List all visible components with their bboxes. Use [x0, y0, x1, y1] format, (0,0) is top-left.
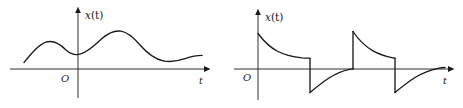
- left-plot-y-axis-label: x(t): [85, 9, 103, 21]
- right-plot: x(t) O t: [234, 9, 455, 100]
- left-plot-origin-label: O: [61, 73, 69, 84]
- right-plot-decay-segment-1: [258, 34, 310, 59]
- right-plot-origin-label: O: [243, 72, 251, 83]
- right-plot-x-axis-label: t: [443, 75, 447, 86]
- right-plot-y-axis-label: x(t): [265, 11, 283, 23]
- left-plot-x-axis-label: t: [199, 75, 203, 86]
- right-plot-decay-segment-2: [353, 32, 395, 59]
- right-plot-y-axis-label-arg: (t): [271, 11, 283, 23]
- figure-svg: x(t) O t: [0, 0, 463, 108]
- figure-canvas: x(t) O t: [0, 0, 463, 108]
- right-plot-y-axis-arrow-icon: [255, 9, 261, 15]
- left-plot-y-axis-arrow-icon: [75, 7, 81, 13]
- left-plot-signal-curve: [24, 31, 202, 63]
- right-plot-rise-segment-1: [310, 69, 353, 93]
- left-plot-y-axis-label-arg: (t): [91, 9, 103, 21]
- right-plot-rise-segment-2: [395, 68, 445, 93]
- left-plot: x(t) O t: [10, 7, 211, 98]
- right-plot-x-axis-arrow-icon: [448, 66, 455, 72]
- left-plot-x-axis-arrow-icon: [204, 66, 211, 72]
